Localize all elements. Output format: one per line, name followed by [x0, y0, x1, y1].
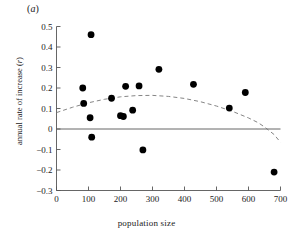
y-tick-label: 0: [48, 124, 53, 134]
x-tick-label: 100: [82, 194, 96, 204]
y-axis-ticks: [57, 27, 61, 191]
y-axis-tick-labels: 0.50.40.30.20.10−0.1−0.2−0.3: [36, 22, 53, 196]
x-tick-label: 300: [146, 194, 160, 204]
data-point: [122, 83, 129, 90]
data-point: [242, 89, 249, 96]
y-tick-label: 0.3: [41, 63, 53, 73]
y-tick-label: −0.2: [36, 165, 52, 175]
scatter-plot-svg: 0100200300400500600700 0.50.40.30.20.10−…: [0, 0, 293, 240]
data-point: [88, 31, 95, 38]
y-tick-label: −0.3: [36, 186, 53, 196]
plot-area: 0100200300400500600700 0.50.40.30.20.10−…: [0, 0, 293, 240]
x-axis-ticks: [57, 187, 281, 191]
axis-lines: [57, 27, 281, 191]
x-tick-label: 500: [210, 194, 224, 204]
data-point: [156, 66, 163, 73]
data-points: [79, 31, 277, 175]
data-point: [80, 100, 87, 107]
data-point: [120, 113, 127, 120]
x-tick-label: 700: [274, 194, 288, 204]
data-point: [87, 114, 94, 121]
data-point: [108, 95, 115, 102]
y-tick-label: −0.1: [36, 145, 52, 155]
data-point: [136, 83, 143, 90]
figure-panel-a: (a) annual rate of increase (r) populati…: [0, 0, 293, 240]
data-point: [79, 85, 86, 92]
x-tick-label: 600: [242, 194, 256, 204]
x-tick-label: 400: [178, 194, 192, 204]
data-point: [140, 147, 147, 154]
x-tick-label: 200: [114, 194, 128, 204]
y-tick-label: 0.5: [41, 22, 53, 32]
x-axis-tick-labels: 0100200300400500600700: [54, 194, 288, 204]
data-point: [88, 134, 95, 141]
x-tick-label: 0: [54, 194, 59, 204]
y-tick-label: 0.4: [41, 42, 53, 52]
data-point: [271, 169, 278, 176]
y-tick-label: 0.2: [41, 83, 52, 93]
y-tick-label: 0.1: [41, 104, 52, 114]
data-point: [226, 105, 233, 112]
data-point: [190, 81, 197, 88]
data-point: [129, 107, 136, 114]
